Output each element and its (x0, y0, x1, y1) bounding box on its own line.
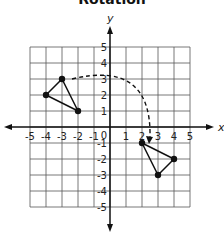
x-axis-label: x (217, 121, 224, 134)
image-triangle-vertex (171, 156, 177, 162)
preimage-triangle-vertex (43, 92, 49, 98)
y-tick-label: 4 (101, 58, 107, 69)
y-axis-arrow-up-icon (107, 26, 113, 34)
y-tick-label: 1 (101, 106, 107, 117)
y-axis-label: y (106, 12, 114, 25)
x-tick-label: -4 (41, 131, 51, 142)
image-triangle-vertex (139, 140, 145, 146)
x-tick-label: -5 (25, 131, 35, 142)
y-tick-label: -3 (97, 170, 107, 181)
coordinate-plane: xy-5-4-3-2-11234554321-1-2-3-4-50 (0, 0, 224, 233)
preimage-triangle-vertex (75, 108, 81, 114)
y-tick-label: -4 (97, 186, 107, 197)
x-tick-label: 4 (171, 131, 177, 142)
y-axis-arrow-down-icon (107, 224, 113, 232)
x-tick-label: 5 (187, 131, 193, 142)
x-axis-arrow-right-icon (206, 124, 214, 130)
preimage-triangle-vertex (59, 76, 65, 82)
x-tick-label: -2 (73, 131, 83, 142)
x-tick-label: -3 (57, 131, 67, 142)
y-tick-label: -5 (97, 202, 107, 213)
origin-label: 0 (101, 130, 107, 141)
y-tick-label: 2 (101, 90, 107, 101)
y-tick-label: -2 (97, 154, 107, 165)
x-axis-arrow-left-icon (4, 124, 12, 130)
y-tick-label: 5 (101, 42, 107, 53)
x-tick-label: 1 (123, 131, 129, 142)
x-tick-label: 3 (155, 131, 161, 142)
image-triangle-vertex (155, 172, 161, 178)
